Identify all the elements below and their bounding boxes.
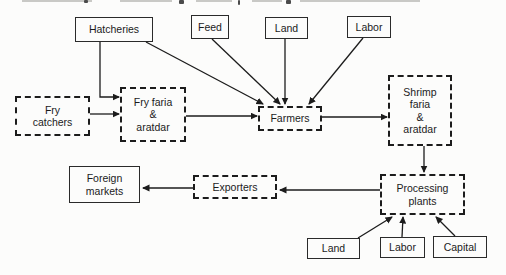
node-label: Hatcheries [89, 23, 139, 36]
node-feed: Feed [191, 15, 229, 39]
node-capital-processing: Capital [433, 236, 487, 258]
node-label: markets [86, 185, 123, 198]
node-hatcheries: Hatcheries [75, 17, 153, 42]
node-label: Labor [389, 241, 416, 254]
node-fry-faria-aratdar: Fry faria&aratdar [120, 87, 186, 142]
diagram-canvas: HatcheriesFeedLandLaborFrycatchersFry fa… [0, 0, 506, 275]
node-label: Capital [444, 241, 477, 254]
node-label: & [416, 111, 423, 124]
node-label: Labor [356, 21, 383, 34]
node-fry-catchers: Frycatchers [15, 96, 90, 136]
node-label: faria [410, 98, 430, 111]
node-label: Foreign [87, 172, 123, 185]
node-foreign-markets: Foreignmarkets [69, 166, 140, 203]
node-layer: HatcheriesFeedLandLaborFrycatchersFry fa… [0, 0, 506, 275]
node-label: Processing [397, 182, 449, 195]
node-label: Fry [45, 104, 60, 117]
node-label: Farmers [270, 112, 309, 125]
node-label: aratdar [136, 121, 169, 134]
node-label: Exporters [213, 181, 258, 194]
node-land-input: Land [265, 17, 308, 39]
node-label: plants [408, 195, 436, 208]
node-label: Shrimp [403, 86, 436, 99]
node-label: Feed [198, 21, 222, 34]
node-labor-input: Labor [347, 16, 391, 38]
node-land-processing: Land [307, 238, 360, 259]
node-label: Fry faria [134, 96, 173, 109]
node-farmers: Farmers [258, 106, 322, 131]
node-exporters: Exporters [193, 175, 277, 199]
node-labor-processing: Labor [380, 237, 425, 258]
node-label: catchers [33, 116, 73, 129]
node-shrimp-faria-aratdar: Shrimpfaria&aratdar [388, 75, 452, 146]
node-label: & [149, 108, 156, 121]
node-processing-plants: Processingplants [380, 174, 465, 215]
node-label: aratdar [403, 123, 436, 136]
node-label: Land [322, 242, 345, 255]
node-label: Land [275, 22, 298, 35]
